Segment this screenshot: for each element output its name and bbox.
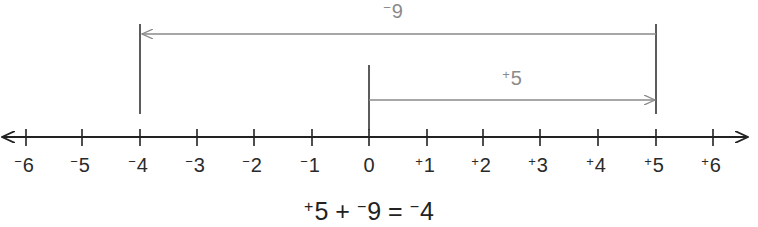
tick-label: 0 — [363, 155, 374, 175]
tick-label: +1 — [415, 155, 435, 175]
number-line-diagram — [0, 0, 758, 227]
tick-label: −4 — [128, 155, 148, 175]
tick-label: +6 — [701, 155, 721, 175]
equation: +5 + −9 = −4 — [304, 199, 434, 224]
arrow-label-plus-5: +5 — [502, 68, 522, 88]
tick-label: −6 — [14, 155, 34, 175]
tick-label: −5 — [70, 155, 90, 175]
tick-label: −1 — [300, 155, 320, 175]
tick-label: −3 — [185, 155, 205, 175]
tick-label: +3 — [528, 155, 548, 175]
tick-label: +2 — [471, 155, 491, 175]
tick-label: +5 — [644, 155, 664, 175]
arrow-label-minus-9: −9 — [383, 1, 403, 21]
tick-label: +4 — [586, 155, 606, 175]
tick-label: −2 — [242, 155, 262, 175]
